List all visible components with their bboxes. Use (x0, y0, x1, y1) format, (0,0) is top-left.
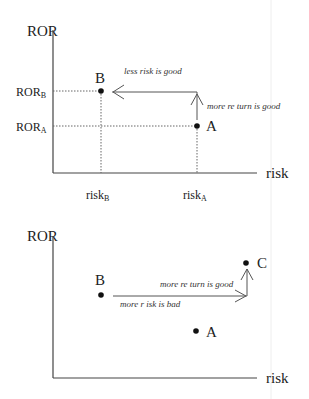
risk-b-label: riskB (86, 188, 109, 203)
point-a-label: A (206, 324, 217, 340)
bottom-x-axis-label: risk (266, 370, 289, 386)
less-risk-label: less risk is good (124, 66, 182, 76)
bottom-panel: ROR risk B A C more re turn is good more… (27, 228, 289, 386)
point-b-dot (98, 88, 104, 94)
more-risk-label: more r isk is bad (120, 299, 181, 309)
point-a-dot (194, 123, 200, 129)
point-a-dot (193, 328, 199, 334)
point-a-label: A (206, 118, 217, 134)
risk-return-diagram: ROR risk RORB RORA riskB riskA B A less … (0, 0, 309, 399)
point-b-label: B (95, 70, 105, 86)
more-return-label: more re turn is good (160, 279, 234, 289)
top-x-axis-label: risk (266, 165, 289, 181)
more-return-arrow (191, 92, 203, 120)
point-c-dot (243, 260, 249, 266)
ror-a-label: RORA (16, 120, 47, 135)
point-c-label: C (257, 255, 267, 271)
more-return-label: more re turn is good (207, 101, 281, 111)
ror-b-label: RORB (16, 85, 46, 100)
point-b-dot (98, 292, 104, 298)
more-return-arrow (241, 269, 253, 296)
risk-a-label: riskA (183, 188, 207, 203)
less-risk-arrow (112, 85, 197, 99)
point-b-label: B (95, 272, 105, 288)
top-panel: ROR risk RORB RORA riskB riskA B A less … (16, 23, 289, 203)
